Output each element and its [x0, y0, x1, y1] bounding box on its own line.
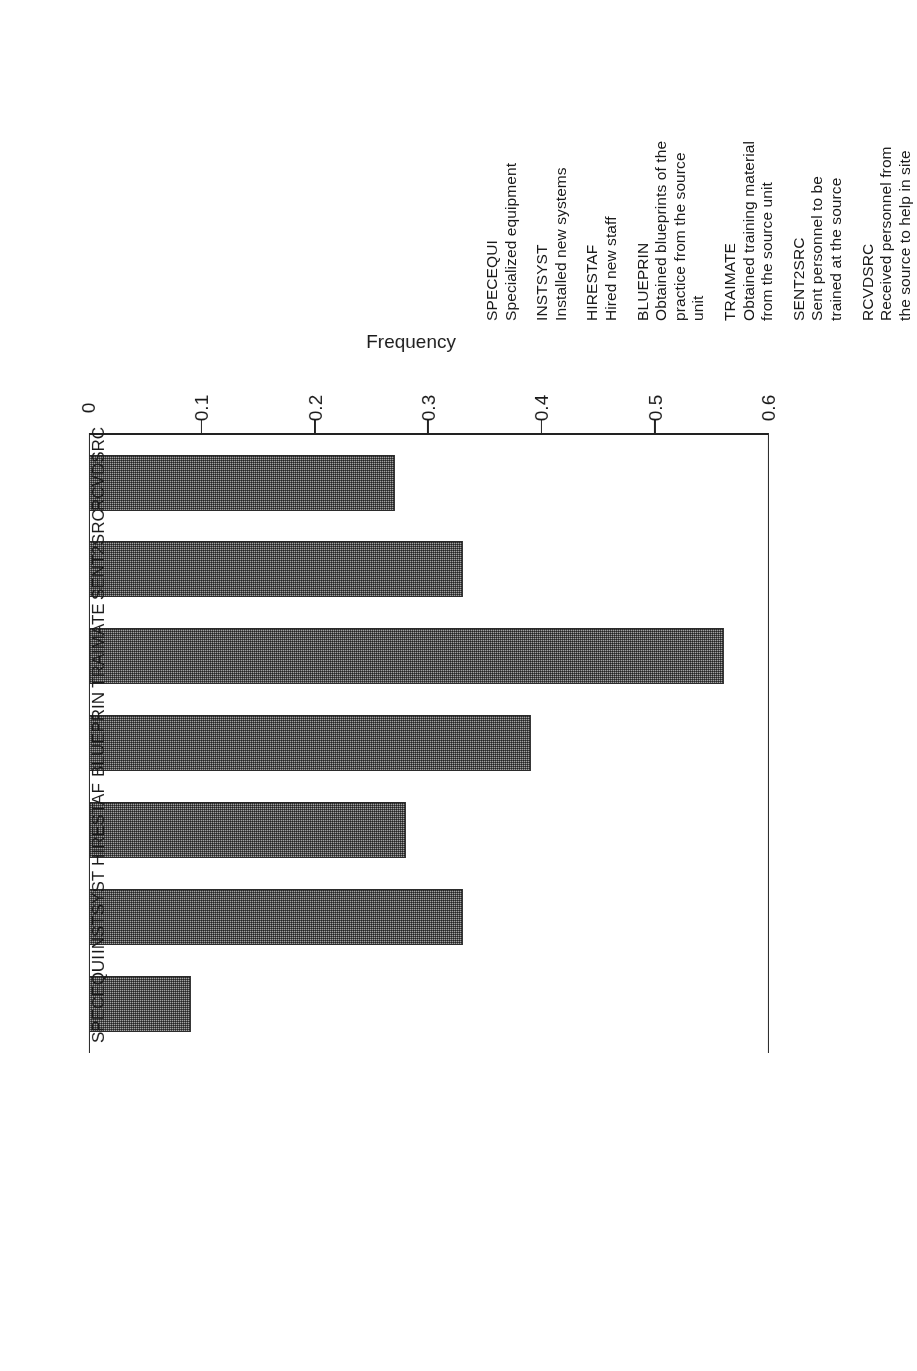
bar-row	[89, 715, 769, 771]
legend-description: Received personnel from the source to he…	[877, 21, 914, 321]
legend-entry-sent2src: SENT2SRCSent personnel to be trained at …	[790, 21, 846, 321]
bar-row	[89, 628, 769, 684]
bar-series	[89, 433, 769, 1053]
bar-row	[89, 802, 769, 858]
category-label-blueprin: BLUEPRIN	[89, 692, 109, 777]
legend-description: Obtained blueprints of the practice from…	[652, 21, 708, 321]
legend-entry-rcvdsrc: RCVDSRCReceived personnel from the sourc…	[859, 21, 915, 321]
category-axis-labels: SPECEQUIINSTSYSTHIRESTAFBLUEPRINTRAIMATE…	[9, 433, 89, 1053]
legend-description: Installed new systems	[552, 21, 571, 321]
legend-description: Sent personnel to be trained at the sour…	[808, 21, 845, 321]
value-axis-tick-labels: 00.10.20.30.40.50.6	[0, 359, 823, 419]
legend-code: SPECEQUI	[483, 21, 502, 321]
legend: SPECEQUISpecialized equipmentINSTSYSTIns…	[83, 21, 783, 321]
value-tick-label: 0.5	[645, 388, 667, 428]
legend-code: INSTSYST	[533, 21, 552, 321]
value-tick-label: 0.6	[758, 388, 780, 428]
value-axis-title: Frequency	[0, 331, 823, 353]
bar-row	[89, 541, 769, 597]
value-axis-title-text: Frequency	[367, 331, 457, 353]
category-label-instsyst: INSTSYST	[89, 871, 109, 954]
bar-hirestaf	[89, 802, 406, 858]
category-label-hirestaf: HIRESTAF	[89, 783, 109, 866]
category-label-sent2src: SENT2SRC	[89, 509, 109, 600]
legend-entry-blueprin: BLUEPRINObtained blueprints of the pract…	[634, 21, 708, 321]
value-tick-label: 0.2	[305, 388, 327, 428]
category-label-rcvdsrc: RCVDSRC	[89, 427, 109, 511]
value-tick-label: 0.1	[191, 388, 213, 428]
legend-entry-specequi: SPECEQUISpecialized equipment	[483, 21, 520, 321]
category-label-specequi: SPECEQUI	[89, 955, 109, 1043]
plot-area	[89, 433, 769, 1053]
legend-entry-hirestaf: HIRESTAFHired new staff	[583, 21, 620, 321]
legend-code: TRAIMATE	[721, 21, 740, 321]
legend-entry-traimate: TRAIMATEObtained training material from …	[721, 21, 777, 321]
legend-code: HIRESTAF	[583, 21, 602, 321]
bar-row	[89, 976, 769, 1032]
value-tick-label: 0.4	[531, 388, 553, 428]
legend-code: SENT2SRC	[790, 21, 809, 321]
bar-row	[89, 889, 769, 945]
legend-code: RCVDSRC	[859, 21, 878, 321]
bar-rcvdsrc	[89, 455, 395, 511]
value-tick-label: 0.3	[418, 388, 440, 428]
bar-sent2src	[89, 541, 463, 597]
legend-description: Specialized equipment	[502, 21, 521, 321]
legend-entries: SPECEQUISpecialized equipmentINSTSYSTIns…	[483, 21, 917, 321]
legend-code: BLUEPRIN	[634, 21, 653, 321]
bar-blueprin	[89, 715, 531, 771]
bar-instsyst	[89, 889, 463, 945]
legend-description: Hired new staff	[602, 21, 621, 321]
category-label-traimate: TRAIMATE	[89, 604, 109, 689]
bar-row	[89, 455, 769, 511]
bar-traimate	[89, 628, 724, 684]
value-tick-label: 0	[78, 388, 100, 428]
legend-description: Obtained training material from the sour…	[740, 21, 777, 321]
legend-entry-instsyst: INSTSYSTInstalled new systems	[533, 21, 570, 321]
